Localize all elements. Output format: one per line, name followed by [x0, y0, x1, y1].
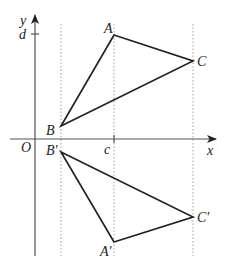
vertex-label-c: C: [197, 54, 207, 69]
triangle-a-prime-b-prime-c-prime: [61, 152, 193, 242]
origin-label: O: [21, 140, 31, 155]
vertex-label-b-prime: B′: [46, 143, 59, 158]
x-axis-label: x: [206, 143, 214, 158]
vertex-label-c-prime: C′: [197, 210, 210, 225]
y-tick-label-d: d: [19, 27, 27, 42]
triangle-abc: [61, 35, 193, 126]
vertex-label-b: B: [46, 123, 55, 138]
y-axis-label: y: [18, 13, 27, 28]
reflection-diagram: y d O c x A B C B′ A′ C′: [0, 0, 229, 272]
vertex-label-a: A: [103, 21, 113, 36]
x-tick-label-c: c: [104, 142, 111, 157]
vertex-label-a-prime: A′: [99, 244, 113, 259]
